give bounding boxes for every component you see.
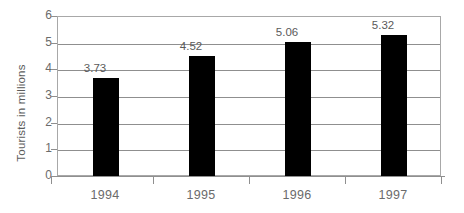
bar	[189, 56, 215, 177]
y-axis-tick-label: 3	[26, 88, 52, 102]
bar-value-label: 5.06	[264, 26, 310, 38]
y-axis-tick-label: 4	[26, 61, 52, 75]
bar-value-label: 5.32	[360, 19, 406, 31]
x-axis-tick-mark	[153, 177, 154, 184]
y-axis-tick-label: 1	[26, 141, 52, 155]
bar-chart: Tourists in millions 0123456 3.734.525.0…	[0, 0, 464, 213]
y-axis-tick-label: 2	[26, 115, 52, 129]
x-axis-tick-label: 1995	[166, 188, 236, 202]
x-axis-tick-mark	[249, 177, 250, 184]
bar	[93, 78, 119, 177]
bar	[285, 42, 311, 177]
bar-value-label: 4.52	[168, 40, 214, 52]
y-axis-tick-label: 6	[26, 8, 52, 22]
x-axis-tick-mark	[345, 177, 346, 184]
x-axis-line	[51, 176, 445, 177]
bar	[381, 35, 407, 177]
y-axis-tick-label: 5	[26, 35, 52, 49]
x-axis-tick-label: 1996	[262, 188, 332, 202]
x-axis-tick-mark	[441, 177, 442, 184]
x-axis-tick-label: 1994	[70, 188, 140, 202]
y-axis-tick-label: 0	[26, 168, 52, 182]
x-axis-tick-label: 1997	[358, 188, 428, 202]
bar-value-label: 3.73	[72, 62, 118, 74]
x-axis-tick-mark	[51, 177, 52, 184]
plot-area	[57, 16, 441, 176]
